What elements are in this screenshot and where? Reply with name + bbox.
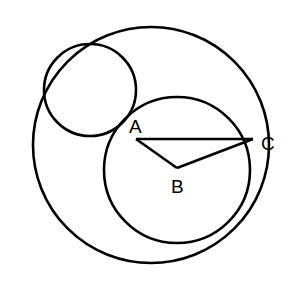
large-circle: [33, 27, 269, 263]
geometry-diagram: A B C: [0, 0, 293, 284]
point-label-a: A: [129, 116, 142, 137]
segment-bc: [177, 139, 253, 168]
point-label-c: C: [261, 133, 275, 154]
medium-circle: [104, 97, 250, 243]
point-label-b: B: [171, 176, 184, 197]
segment-ab: [136, 139, 177, 168]
